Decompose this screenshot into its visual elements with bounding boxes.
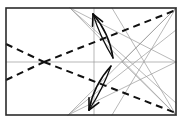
crease-pattern-canvas: Origami crease pattern with fold arrows: [0, 0, 182, 123]
crease-pattern-diagram: Origami crease pattern with fold arrows: [0, 0, 182, 123]
